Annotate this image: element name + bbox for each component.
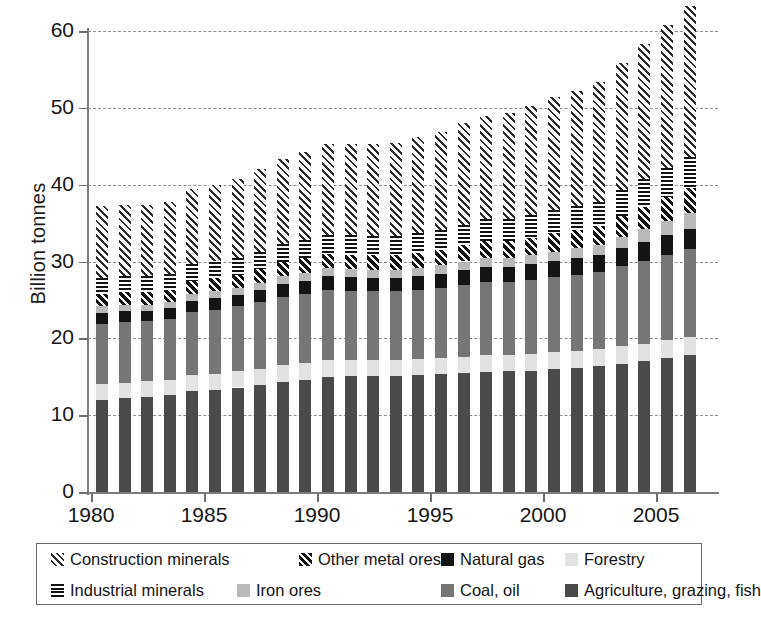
legend-item-agri[interactable]: Agriculture, grazing, fish [565, 575, 761, 606]
bar-segment-other_metal_ores [299, 258, 311, 273]
legend-swatch-forestry-icon [565, 553, 578, 566]
bar-segment-other_metal_ores [548, 233, 560, 251]
bar-segment-coal_oil [616, 266, 628, 346]
bar-segment-industrial_minerals [186, 264, 198, 281]
bar-segment-agri [277, 382, 289, 492]
bar-2004 [638, 31, 650, 492]
bar-1985 [209, 31, 221, 492]
bar-segment-iron_ores [480, 258, 492, 267]
bar-segment-agri [390, 376, 402, 492]
bar-segment-construction_minerals [164, 202, 176, 274]
legend-label: Forestry [584, 551, 645, 568]
bar-segment-construction_minerals [661, 25, 673, 168]
bar-segment-forestry [661, 340, 673, 358]
bar-segment-industrial_minerals [141, 276, 153, 292]
bar-segment-other_metal_ores [141, 292, 153, 304]
bar-segment-natural_gas [299, 281, 311, 294]
legend-item-natural_gas[interactable]: Natural gas [441, 544, 544, 575]
bar-segment-forestry [367, 360, 379, 376]
bar-segment-construction_minerals [232, 179, 244, 258]
bar-segment-iron_ores [277, 276, 289, 284]
y-tick-label-20: 20 [28, 325, 74, 349]
bar-1983 [164, 31, 176, 492]
bar-2003 [616, 31, 628, 492]
bar-segment-iron_ores [119, 305, 131, 312]
x-tick-label-2000: 2000 [503, 503, 583, 527]
bar-1993 [390, 31, 402, 492]
legend-item-construction_minerals[interactable]: Construction minerals [51, 544, 230, 575]
y-tick-mark-30 [79, 262, 88, 264]
bar-segment-other_metal_ores [164, 290, 176, 302]
bar-segment-agri [96, 400, 108, 492]
bar-segment-natural_gas [367, 278, 379, 292]
bar-segment-forestry [616, 346, 628, 364]
bar-segment-construction_minerals [299, 152, 311, 240]
bar-segment-iron_ores [232, 288, 244, 295]
bar-segment-other_metal_ores [232, 275, 244, 288]
bar-segment-agri [435, 374, 447, 492]
bar-segment-construction_minerals [186, 189, 198, 264]
bar-segment-construction_minerals [412, 137, 424, 233]
legend-item-forestry[interactable]: Forestry [565, 544, 645, 575]
bar-segment-industrial_minerals [232, 258, 244, 275]
bar-segment-agri [164, 395, 176, 492]
bar-1989 [299, 31, 311, 492]
bar-segment-industrial_minerals [96, 278, 108, 294]
bar-segment-natural_gas [390, 278, 402, 292]
x-tick-label-1995: 1995 [390, 503, 470, 527]
bar-segment-other_metal_ores [390, 255, 402, 270]
bar-segment-natural_gas [254, 290, 266, 302]
bar-segment-industrial_minerals [367, 236, 379, 255]
legend-item-coal_oil[interactable]: Coal, oil [441, 575, 520, 606]
bar-segment-forestry [684, 337, 696, 355]
bar-1999 [525, 31, 537, 492]
y-tick-mark-50 [79, 108, 88, 110]
bar-segment-agri [593, 366, 605, 492]
bar-segment-other_metal_ores [480, 241, 492, 258]
bar-segment-industrial_minerals [548, 210, 560, 233]
bar-2002 [593, 31, 605, 492]
bar-segment-agri [548, 369, 560, 492]
bar-segment-agri [254, 385, 266, 492]
x-tick-label-1990: 1990 [277, 503, 357, 527]
legend-item-iron_ores[interactable]: Iron ores [237, 575, 321, 606]
legend-item-industrial_minerals[interactable]: Industrial minerals [51, 575, 204, 606]
bar-segment-natural_gas [480, 267, 492, 282]
bar-segment-other_metal_ores [435, 250, 447, 265]
bar-segment-natural_gas [164, 308, 176, 319]
bar-segment-agri [412, 375, 424, 492]
bar-segment-coal_oil [435, 288, 447, 358]
bar-segment-coal_oil [345, 291, 357, 360]
bar-segment-forestry [345, 360, 357, 376]
bar-segment-iron_ores [616, 237, 628, 249]
bar-segment-iron_ores [661, 221, 673, 236]
bar-segment-natural_gas [322, 276, 334, 290]
bar-segment-coal_oil [186, 312, 198, 375]
y-tick-label-50: 50 [28, 95, 74, 119]
bar-segment-iron_ores [390, 270, 402, 278]
bar-segment-iron_ores [164, 302, 176, 308]
bar-segment-agri [299, 380, 311, 492]
x-tick-mark-1990 [317, 493, 319, 502]
legend-item-other_metal_ores[interactable]: Other metal ores [299, 544, 441, 575]
bar-segment-other_metal_ores [186, 281, 198, 294]
bar-1990 [322, 31, 334, 492]
bar-1995 [435, 31, 447, 492]
bar-segment-coal_oil [684, 249, 696, 337]
bar-segment-forestry [186, 375, 198, 391]
bar-segment-iron_ores [299, 273, 311, 281]
bar-segment-construction_minerals [435, 132, 447, 230]
bar-segment-other_metal_ores [254, 269, 266, 283]
bar-segment-coal_oil [232, 306, 244, 371]
bar-1982 [141, 31, 153, 492]
bar-segment-coal_oil [277, 297, 289, 365]
bar-segment-agri [367, 376, 379, 492]
bar-segment-industrial_minerals [164, 274, 176, 290]
bar-segment-natural_gas [277, 284, 289, 297]
bar-segment-natural_gas [503, 267, 515, 282]
bar-segment-industrial_minerals [661, 168, 673, 197]
bar-segment-other_metal_ores [593, 226, 605, 245]
bar-segment-coal_oil [412, 290, 424, 359]
bar-segment-coal_oil [458, 285, 470, 356]
bar-segment-agri [661, 358, 673, 492]
